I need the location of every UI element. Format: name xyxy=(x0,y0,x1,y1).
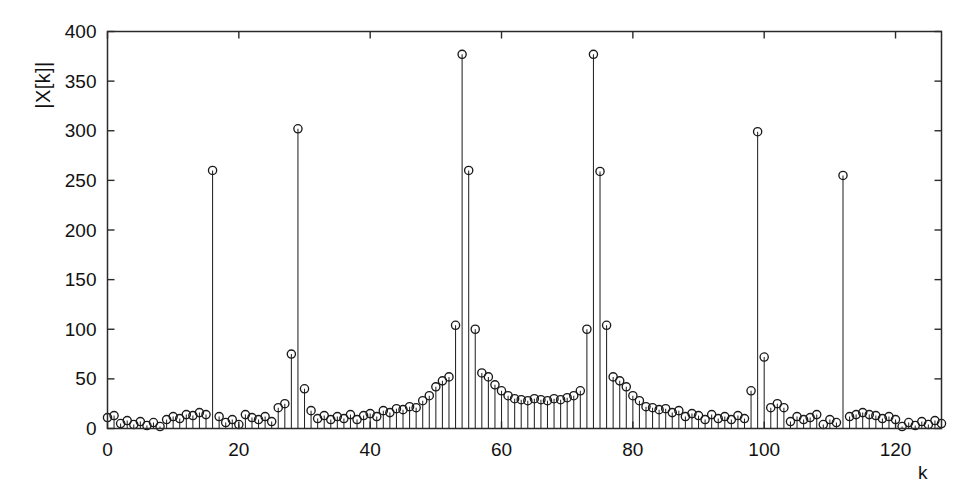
x-tick-label: 0 xyxy=(102,439,113,460)
y-tick-mark-group xyxy=(108,32,942,429)
x-tick-label: 60 xyxy=(491,439,512,460)
y-tick-label: 300 xyxy=(65,120,97,141)
y-tick-label: 150 xyxy=(65,269,97,290)
axis-frame xyxy=(108,32,942,429)
y-tick-label: 250 xyxy=(65,170,97,191)
y-tick-label: 350 xyxy=(65,71,97,92)
y-tick-label: 50 xyxy=(75,368,96,389)
y-tick-label: 400 xyxy=(65,21,97,42)
y-tick-label-group: 050100150200250300350400 xyxy=(65,21,97,439)
stem-group xyxy=(108,54,942,428)
x-tick-label: 40 xyxy=(360,439,381,460)
x-tick-label: 20 xyxy=(228,439,249,460)
x-tick-label: 120 xyxy=(880,439,912,460)
y-tick-label: 0 xyxy=(86,418,97,439)
figure-dft-magnitude: |X[k]| k 050100150200250300350400 020406… xyxy=(0,0,978,503)
marker-group xyxy=(103,50,945,430)
y-tick-label: 100 xyxy=(65,319,97,340)
x-tick-label: 80 xyxy=(622,439,643,460)
x-tick-mark-group xyxy=(108,32,896,429)
y-tick-label: 200 xyxy=(65,220,97,241)
x-tick-label: 100 xyxy=(748,439,780,460)
x-tick-label-group: 020406080100120 xyxy=(102,439,911,460)
chart-canvas: 050100150200250300350400 020406080100120 xyxy=(0,0,978,503)
